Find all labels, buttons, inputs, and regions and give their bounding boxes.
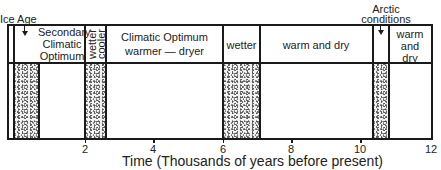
period-label-line: warmer — dryer — [106, 45, 223, 57]
stipple-band-wetter-cooler — [86, 64, 106, 138]
x-axis-title: Time (Thousands of years before present) — [122, 153, 383, 169]
header-divider — [7, 62, 433, 64]
period-label-line: Optimum — [38, 50, 86, 62]
period-label-line: Secondary — [38, 26, 86, 38]
arctic-arrow-icon — [378, 30, 384, 35]
divider-ice-age — [13, 24, 15, 140]
stipple-band-ice-age — [14, 64, 39, 138]
period-label-line: dry — [389, 52, 431, 64]
period-warm-and-dry-recent: warm and dry — [389, 28, 431, 64]
ice-age-annotation: Ice Age — [0, 13, 46, 25]
box-right-border — [431, 24, 433, 140]
x-axis-line — [7, 138, 433, 140]
stipple-band-wetter — [224, 64, 260, 138]
period-wetter: wetter — [223, 39, 260, 51]
divider-0-6k — [38, 62, 40, 140]
ice-age-arrow-icon — [22, 31, 28, 36]
period-warm-and-dry: warm and dry — [260, 39, 372, 51]
period-wetter-cooler-line2: cooler — [96, 28, 106, 60]
period-secondary-climatic-optimum: Secondary Climatic Optimum — [38, 26, 86, 62]
divider-10-4k — [372, 24, 374, 140]
box-left-border — [7, 24, 9, 140]
period-label-line: Climatic — [38, 38, 86, 50]
period-climatic-optimum: Climatic Optimum warmer — dryer — [106, 31, 223, 57]
period-label-line: Climatic Optimum — [106, 31, 223, 43]
tick-label-2: 2 — [75, 143, 95, 155]
stipple-band-arctic — [373, 64, 388, 138]
period-label-line: warm — [389, 28, 431, 40]
tick-label-12: 12 — [421, 143, 441, 155]
arctic-annotation-line2: conditions — [351, 13, 421, 25]
period-label-line: and — [389, 40, 431, 52]
